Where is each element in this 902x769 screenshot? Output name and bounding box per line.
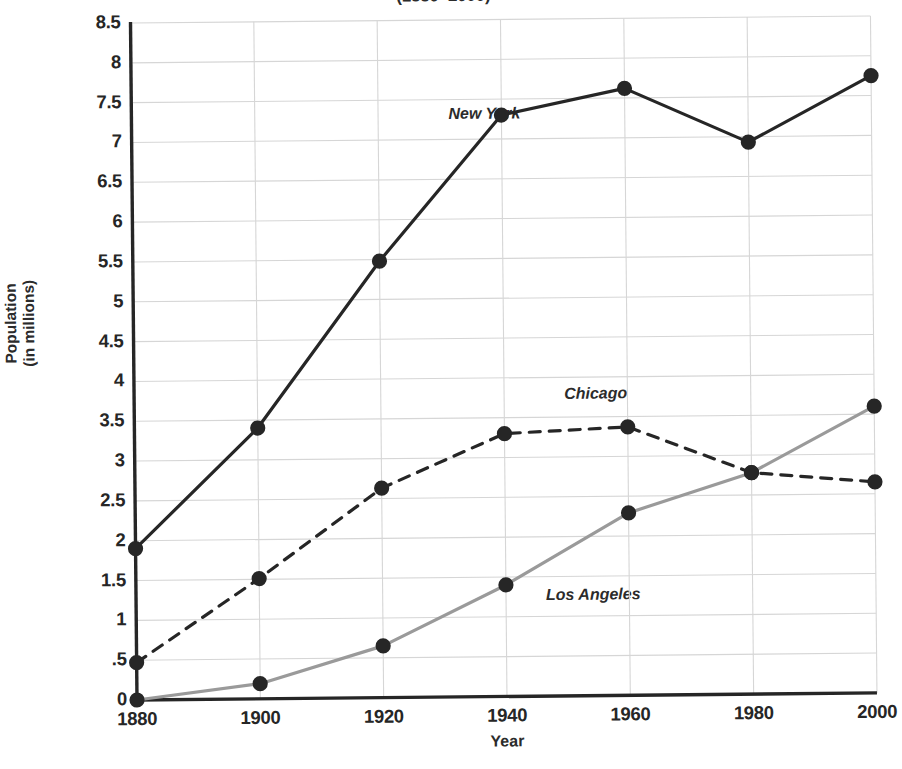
vertical-gridline — [377, 21, 383, 698]
data-point-chicago — [129, 655, 144, 670]
data-point-new-york — [128, 541, 143, 556]
data-point-chicago — [620, 419, 635, 434]
plot-area — [0, 0, 891, 769]
data-point-new-york — [617, 81, 632, 96]
data-point-los-angeles — [498, 577, 513, 592]
vertical-gridline — [624, 18, 630, 695]
data-point-los-angeles — [744, 465, 759, 480]
data-point-chicago — [374, 480, 389, 495]
data-point-new-york — [494, 107, 509, 122]
data-point-los-angeles — [621, 505, 636, 520]
vertical-gridline — [254, 22, 260, 699]
data-point-los-angeles — [867, 399, 882, 414]
data-point-new-york — [250, 420, 265, 435]
data-point-chicago — [497, 426, 512, 441]
data-point-chicago — [252, 571, 267, 586]
data-point-chicago — [867, 474, 882, 489]
vertical-gridline — [747, 17, 753, 694]
data-point-new-york — [741, 134, 756, 149]
data-point-new-york — [863, 68, 878, 83]
chart-skew-wrapper: (1880–2000) Population (in millions) Yea… — [0, 0, 891, 769]
y-axis-line — [130, 22, 137, 700]
data-point-los-angeles — [129, 692, 144, 707]
data-point-new-york — [372, 254, 387, 269]
vertical-gridline — [870, 16, 876, 693]
data-point-los-angeles — [253, 676, 268, 691]
data-point-los-angeles — [375, 638, 390, 653]
